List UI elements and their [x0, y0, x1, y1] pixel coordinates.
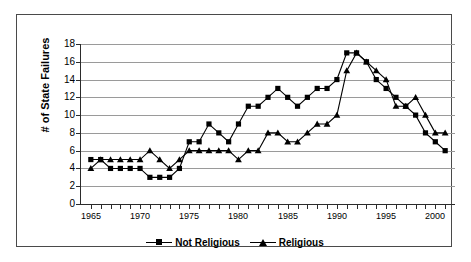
marker-square: [393, 95, 398, 100]
legend-entry-not-religious[interactable]: Not Religious: [146, 237, 239, 248]
marker-square: [344, 50, 349, 55]
y-tick-label-6: 6: [49, 146, 75, 156]
y-tick-label-12: 12: [49, 92, 75, 102]
marker-square: [118, 166, 123, 171]
x-tick-mark-1984: [278, 205, 279, 209]
marker-square: [305, 95, 310, 100]
y-tick-label-16: 16: [49, 57, 75, 67]
legend-label: Not Religious: [175, 237, 239, 248]
y-tick-mark-2: [76, 186, 80, 187]
x-tick-mark-1982: [258, 205, 259, 209]
x-tick-mark-1986: [298, 205, 299, 209]
marker-square: [157, 175, 162, 180]
y-tick-mark-8: [76, 133, 80, 134]
y-tick-label-0: 0: [49, 199, 75, 209]
marker-square: [413, 113, 418, 118]
marker-triangle: [412, 94, 419, 100]
y-tick-label-14: 14: [49, 75, 75, 85]
marker-square: [374, 77, 379, 82]
x-tick-mark-1969: [130, 205, 131, 209]
series-layer: [81, 44, 455, 204]
legend-label: Religious: [279, 237, 324, 248]
x-tick-mark-1974: [179, 205, 180, 209]
x-tick-label-1990: 1990: [317, 211, 357, 221]
marker-square: [177, 166, 182, 171]
marker-triangle: [146, 147, 153, 153]
x-tick-mark-1967: [111, 205, 112, 209]
y-tick-label-18: 18: [49, 39, 75, 49]
marker-square: [236, 121, 241, 126]
x-tick-mark-1990: [337, 205, 338, 209]
y-tick-mark-6: [76, 151, 80, 152]
marker-square: [137, 166, 142, 171]
marker-triangle: [333, 112, 340, 118]
marker-square: [384, 86, 389, 91]
marker-square: [256, 104, 261, 109]
x-tick-mark-1983: [268, 205, 269, 209]
marker-square: [108, 166, 113, 171]
x-tick-label-1965: 1965: [71, 211, 111, 221]
marker-square: [433, 139, 438, 144]
series-line: [91, 53, 445, 169]
marker-square: [226, 139, 231, 144]
legend-swatch-triangle-icon: [250, 238, 276, 247]
chart-figure: # of State Failures 024681012141618 1965…: [0, 0, 471, 262]
y-tick-label-2: 2: [49, 181, 75, 191]
marker-square: [197, 139, 202, 144]
y-tick-mark-14: [76, 80, 80, 81]
marker-square: [423, 130, 428, 135]
x-tick-mark-1988: [317, 205, 318, 209]
series-religious: [87, 49, 448, 171]
marker-triangle: [422, 112, 429, 118]
x-tick-mark-1968: [120, 205, 121, 209]
marker-square: [88, 157, 93, 162]
x-tick-label-1975: 1975: [169, 211, 209, 221]
x-tick-mark-1987: [307, 205, 308, 209]
x-tick-mark-1981: [248, 205, 249, 209]
x-tick-mark-1996: [396, 205, 397, 209]
series-line: [91, 53, 445, 177]
x-tick-mark-1973: [170, 205, 171, 209]
marker-square: [167, 175, 172, 180]
y-tick-mark-4: [76, 168, 80, 169]
marker-square: [295, 104, 300, 109]
y-axis-tick-labels: 024681012141618: [45, 44, 75, 204]
x-tick-label-1980: 1980: [218, 211, 258, 221]
x-tick-mark-1985: [288, 205, 289, 209]
chart-legend: Not ReligiousReligious: [17, 237, 453, 248]
marker-square: [275, 86, 280, 91]
y-tick-mark-12: [76, 97, 80, 98]
marker-square: [443, 148, 448, 153]
y-tick-label-10: 10: [49, 110, 75, 120]
marker-square: [334, 77, 339, 82]
marker-square: [206, 121, 211, 126]
x-tick-mark-1966: [101, 205, 102, 209]
marker-square: [315, 86, 320, 91]
marker-square: [187, 139, 192, 144]
x-axis-tick-marks: [81, 205, 455, 210]
x-tick-mark-1994: [376, 205, 377, 209]
plot-area: [81, 44, 455, 204]
x-tick-mark-1993: [366, 205, 367, 209]
x-tick-mark-1999: [425, 205, 426, 209]
marker-square: [128, 166, 133, 171]
y-tick-label-8: 8: [49, 128, 75, 138]
y-tick-mark-10: [76, 115, 80, 116]
legend-entry-religious[interactable]: Religious: [250, 237, 324, 248]
y-tick-label-4: 4: [49, 163, 75, 173]
x-tick-mark-1997: [406, 205, 407, 209]
x-tick-mark-2000: [435, 205, 436, 209]
x-tick-label-2000: 2000: [415, 211, 455, 221]
chart-frame: # of State Failures 024681012141618 1965…: [16, 14, 452, 247]
marker-triangle: [343, 67, 350, 73]
legend-swatch-square-icon: [146, 238, 172, 247]
x-tick-mark-1979: [229, 205, 230, 209]
x-tick-mark-1980: [238, 205, 239, 209]
x-tick-mark-1998: [416, 205, 417, 209]
marker-square: [285, 95, 290, 100]
marker-square: [147, 175, 152, 180]
x-tick-mark-1970: [140, 205, 141, 209]
x-tick-label-1985: 1985: [268, 211, 308, 221]
marker-square: [324, 86, 329, 91]
y-tick-mark-18: [76, 44, 80, 45]
